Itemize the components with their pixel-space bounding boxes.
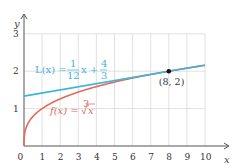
- linear-label-frac2-den: 3: [101, 70, 107, 81]
- linear-label-frac1-den: 12: [67, 70, 80, 81]
- x-tick-label: 5: [112, 152, 118, 162]
- y-axis-label: y: [13, 18, 20, 29]
- x-tick-label: 2: [58, 152, 64, 162]
- tick-labels: 012345678910123: [13, 29, 212, 162]
- x-tick-label: 4: [94, 152, 100, 162]
- chart-canvas: 012345678910123 (8, 2) y x L(x) = 1 12 x…: [0, 0, 238, 168]
- y-tick-label: 2: [13, 66, 19, 76]
- linear-label-frac2-num: 4: [101, 58, 107, 69]
- x-tick-label: 0: [18, 152, 24, 162]
- cuberoot-radicand: x: [88, 105, 94, 116]
- cuberoot-label-name: f(x) =: [49, 105, 79, 116]
- x-tick-label: 6: [130, 152, 136, 162]
- x-tick-label: 8: [166, 152, 172, 162]
- x-tick-label: 9: [184, 152, 190, 162]
- intersection-point: [167, 69, 172, 74]
- x-tick-label: 3: [76, 152, 82, 162]
- x-tick-label: 1: [40, 152, 46, 162]
- linear-label-mid: x +: [81, 64, 98, 75]
- linear-label-frac1-num: 1: [70, 58, 76, 69]
- y-tick-label: 1: [13, 104, 19, 114]
- x-tick-label: 7: [148, 152, 154, 162]
- y-tick-label: 3: [13, 29, 19, 39]
- x-tick-label: 10: [200, 152, 212, 162]
- x-axis-label: x: [224, 154, 230, 165]
- linear-label-name: L(x) =: [35, 64, 67, 75]
- grid: [24, 34, 205, 146]
- axes: [21, 14, 229, 149]
- point-label: (8, 2): [159, 76, 185, 87]
